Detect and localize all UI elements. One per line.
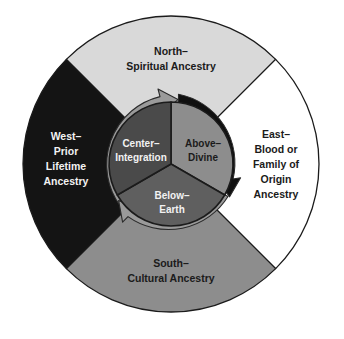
outer-label-east-line-4: Origin (261, 173, 292, 185)
outer-label-east-line-2: Blood or (254, 143, 297, 155)
outer-label-east-line-5: Ancestry (254, 188, 299, 200)
inner-label-center-line-1: Center– (122, 138, 160, 149)
wheel-svg: North– Spiritual Ancestry East– Blood or… (0, 0, 344, 339)
outer-label-west-line-4: Ancestry (44, 175, 89, 187)
outer-label-west-line-3: Lifetime (46, 160, 86, 172)
outer-label-east-line-1: East– (262, 128, 290, 140)
inner-label-below-line-1: Below– (154, 190, 189, 201)
outer-label-south-line-1: South– (153, 257, 189, 269)
outer-label-north-line-2: Spiritual Ancestry (126, 60, 216, 72)
inner-label-above-line-1: Above– (185, 138, 222, 149)
inner-label-above-line-2: Divine (188, 152, 218, 163)
outer-label-north-line-1: North– (154, 45, 188, 57)
inner-label-center-line-2: Integration (115, 152, 167, 163)
outer-label-east-line-3: Family of (253, 158, 300, 170)
outer-label-west-line-2: Prior (54, 145, 79, 157)
outer-label-west-line-1: West– (51, 130, 82, 142)
ancestry-wheel-diagram: North– Spiritual Ancestry East– Blood or… (0, 0, 344, 339)
inner-label-below-line-2: Earth (159, 204, 185, 215)
outer-label-south-line-2: Cultural Ancestry (127, 272, 214, 284)
